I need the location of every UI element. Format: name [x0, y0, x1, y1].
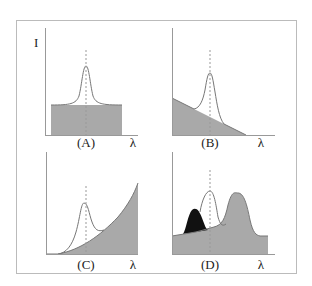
x-axis-label: λ	[130, 135, 137, 150]
panel-label: (C)	[77, 257, 94, 272]
x-axis-label: λ	[258, 257, 265, 272]
panel-label: (D)	[201, 257, 219, 272]
y-axis-label: I	[34, 35, 38, 50]
panel-a: I (A) λ	[34, 28, 138, 150]
emission-peak-curve	[200, 191, 226, 225]
panel-b: (B) λ	[172, 28, 275, 150]
panel-c: (C) λ	[46, 152, 138, 272]
increasing-background-area	[46, 183, 138, 254]
x-axis-label: λ	[258, 135, 265, 150]
panel-d: (D) λ	[172, 152, 275, 272]
panel-label: (A)	[77, 135, 95, 150]
panel-label: (B)	[201, 135, 218, 150]
x-axis-label: λ	[130, 257, 137, 272]
spectral-background-diagram: I (A) λ (B) λ (C) λ (D) λ	[0, 0, 312, 286]
